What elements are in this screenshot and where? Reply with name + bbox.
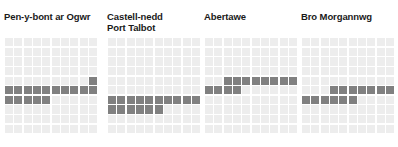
waffle-cell [89,115,97,123]
waffle-cell [270,38,278,46]
waffle-cell [311,77,319,85]
waffle-cell [233,96,241,104]
waffle-cell [24,38,32,46]
waffle-cell [233,57,241,65]
waffle-cell [24,125,32,133]
waffle-cell [330,48,338,56]
waffle-cell [242,115,250,123]
waffle-cell [386,96,394,104]
waffle-cell [24,57,32,65]
waffle-cell [14,67,22,75]
waffle-cell [233,38,241,46]
waffle-cell [155,67,163,75]
waffle-cell [183,67,191,75]
waffle-cell [183,115,191,123]
waffle-cell [145,38,153,46]
waffle-cell [136,115,144,123]
waffle-cell [173,125,181,133]
panel-bro-morgannwg: Bro Morgannwg [297,0,394,147]
waffle-cell [321,96,329,104]
waffle-cell [24,48,32,56]
waffle-cell [89,77,97,85]
waffle-cell [117,77,125,85]
waffle-cell [89,67,97,75]
waffle-cell [358,38,366,46]
waffle-cell [289,57,297,65]
waffle-cell [377,96,385,104]
waffle-cell [173,96,181,104]
waffle-cell [80,38,88,46]
waffle-cell [33,57,41,65]
waffle-cell [61,105,69,113]
waffle-cell [280,86,288,94]
waffle-cell [183,125,191,133]
waffle-cell [270,86,278,94]
waffle-cell [155,105,163,113]
waffle-cell [70,86,78,94]
waffle-cell [214,105,222,113]
waffle-cell [42,57,50,65]
waffle-cell [377,115,385,123]
waffle-cell [155,77,163,85]
waffle-cell [61,77,69,85]
waffle-cell [214,96,222,104]
waffle-cell [358,77,366,85]
waffle-cell [89,86,97,94]
waffle-cell [214,125,222,133]
waffle-cell [52,48,60,56]
waffle-cell [358,105,366,113]
waffle-cell [164,105,172,113]
waffle-cell [349,48,357,56]
waffle-cell [136,125,144,133]
waffle-cell [52,38,60,46]
waffle-cell [52,86,60,94]
waffle-cell [192,105,200,113]
waffle-cell [358,48,366,56]
waffle-cell [252,96,260,104]
panel-abertawe: Abertawe [200,0,297,147]
waffle-cell [339,125,347,133]
waffle-cell [224,67,232,75]
waffle-cell [302,67,310,75]
waffle-cell [80,48,88,56]
waffle-cell [42,125,50,133]
waffle-cell [349,67,357,75]
waffle-cell [42,48,50,56]
waffle-cell [127,86,135,94]
waffle-cell [252,115,260,123]
waffle-cell [108,48,116,56]
waffle-cell [242,86,250,94]
waffle-cell [42,105,50,113]
waffle-cell [205,96,213,104]
waffle-cell [339,67,347,75]
waffle-cell [33,38,41,46]
waffle-cell [367,67,375,75]
waffle-cell [5,96,13,104]
waffle-cell [367,105,375,113]
waffle-cell [136,57,144,65]
waffle-cell [42,115,50,123]
panel-title: Pen-y-bont ar Ogwr [4,12,99,23]
waffle-cell [61,86,69,94]
waffle-cell [52,67,60,75]
waffle-cell [289,125,297,133]
waffle-cell [52,57,60,65]
waffle-cell [127,48,135,56]
waffle-cell [14,48,22,56]
waffle-cell [192,125,200,133]
waffle-cell [173,86,181,94]
waffle-cell [33,86,41,94]
waffle-grid [108,38,200,133]
waffle-cell [173,105,181,113]
waffle-cell [136,48,144,56]
waffle-cell [52,77,60,85]
waffle-cell [173,115,181,123]
waffle-cell [205,86,213,94]
waffle-cell [14,125,22,133]
waffle-cell [173,48,181,56]
waffle-cell [155,96,163,104]
waffle-cell [70,77,78,85]
waffle-cell [349,115,357,123]
waffle-cell [145,86,153,94]
waffle-cell [386,67,394,75]
